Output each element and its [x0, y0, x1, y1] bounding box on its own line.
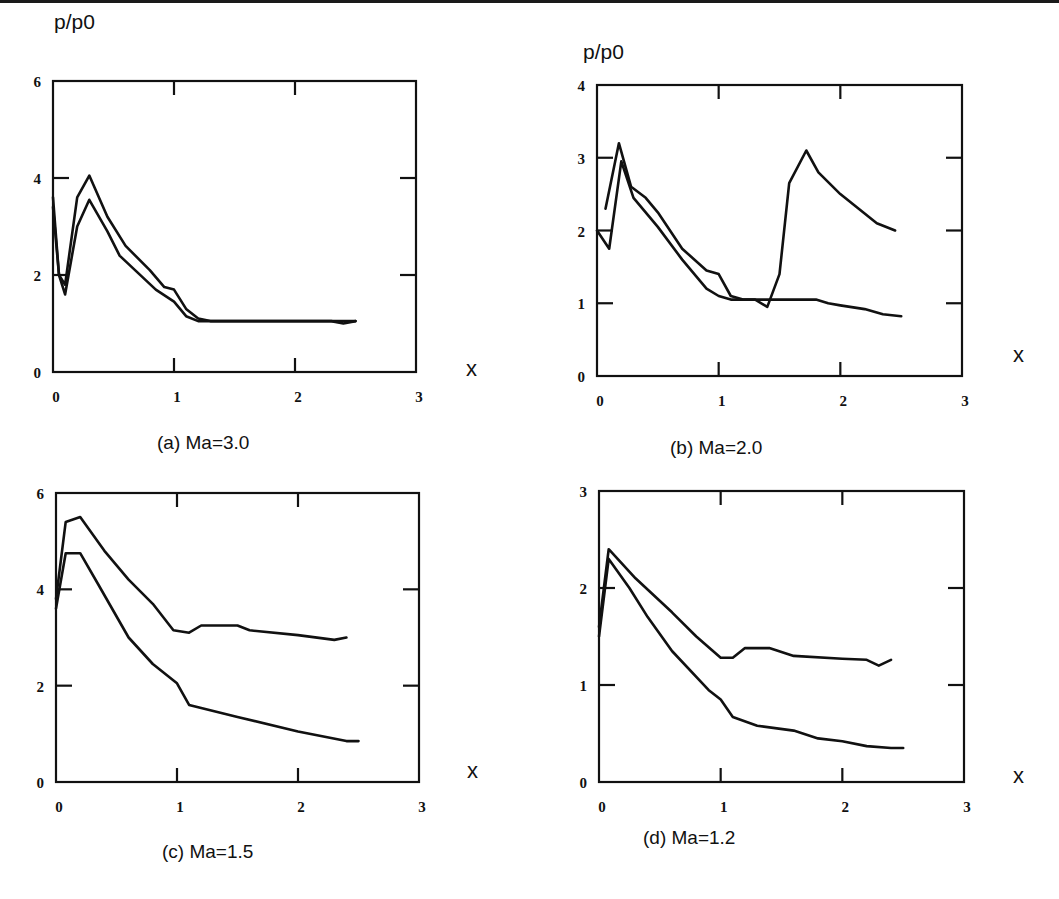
- x-tick-label: 0: [598, 799, 606, 815]
- x-tick-label: 3: [963, 799, 971, 815]
- y-tick-label: 0: [580, 775, 588, 791]
- y-tick-label: 3: [580, 484, 588, 500]
- x-tick-label: 2: [842, 799, 850, 815]
- y-tick-label: 1: [580, 678, 588, 694]
- x-axis-label-d: x: [1013, 763, 1024, 789]
- caption-d: (d) Ma=1.2: [643, 827, 735, 849]
- chart-panel-d: 01230123: [0, 0, 1059, 899]
- x-tick-label: 1: [720, 799, 728, 815]
- plot-frame: [599, 491, 964, 782]
- y-tick-label: 2: [580, 581, 588, 597]
